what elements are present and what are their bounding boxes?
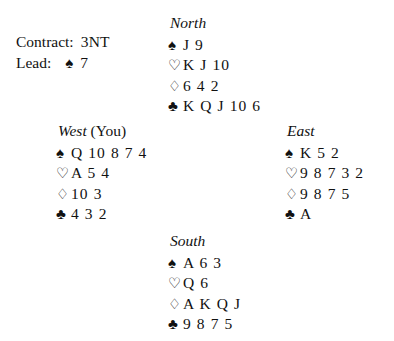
suit-cards-clubs: K Q J 10 6 xyxy=(183,97,261,114)
suit-row-spades: ♠K 5 2 xyxy=(285,143,364,164)
spade-icon: ♠ xyxy=(168,253,183,274)
heart-icon: ♡ xyxy=(56,163,71,184)
suit-row-hearts: ♡K J 10 xyxy=(168,55,261,76)
diamond-icon: ♢ xyxy=(168,76,183,97)
suit-cards-spades: A 6 3 xyxy=(183,254,222,271)
hand-label-east: East xyxy=(285,121,364,142)
contract-label: Contract: xyxy=(16,33,74,50)
suit-row-clubs: ♣A xyxy=(285,204,364,225)
suit-row-diamonds: ♢A K Q J xyxy=(168,294,241,315)
spade-icon: ♠ xyxy=(56,143,71,164)
suit-row-spades: ♠J 9 xyxy=(168,35,261,56)
suit-cards-clubs: 9 8 7 5 xyxy=(183,315,233,332)
club-icon: ♣ xyxy=(168,96,183,117)
hand-label-north: North xyxy=(168,13,261,34)
suit-row-hearts: ♡Q 6 xyxy=(168,273,241,294)
suit-cards-spades: J 9 xyxy=(183,36,204,53)
diamond-icon: ♢ xyxy=(168,294,183,315)
hand-north: North ♠J 9 ♡K J 10 ♢6 4 2 ♣K Q J 10 6 xyxy=(168,13,261,117)
hand-west: West (You) ♠Q 10 8 7 4 ♡A 5 4 ♢10 3 ♣4 3… xyxy=(56,121,147,225)
lead-line: Lead:♠7 xyxy=(16,52,110,74)
suit-cards-diamonds: A K Q J xyxy=(183,295,241,312)
suit-row-hearts: ♡A 5 4 xyxy=(56,163,147,184)
direction-name-north: North xyxy=(170,14,206,31)
club-icon: ♣ xyxy=(56,204,71,225)
diamond-icon: ♢ xyxy=(285,184,300,205)
spade-icon: ♠ xyxy=(65,53,80,74)
suit-row-clubs: ♣K Q J 10 6 xyxy=(168,96,261,117)
lead-label: Lead: xyxy=(16,54,51,71)
heart-icon: ♡ xyxy=(285,163,300,184)
direction-name-east: East xyxy=(287,122,315,139)
hand-south: South ♠A 6 3 ♡Q 6 ♢A K Q J ♣9 8 7 5 xyxy=(168,231,241,335)
you-tag: (You) xyxy=(91,122,126,139)
hand-label-west: West (You) xyxy=(56,121,147,142)
bridge-deal-diagram: Contract:3NT Lead:♠7 North ♠J 9 ♡K J 10 … xyxy=(0,0,394,341)
suit-row-diamonds: ♢10 3 xyxy=(56,184,147,205)
suit-row-diamonds: ♢6 4 2 xyxy=(168,76,261,97)
direction-name-west: West xyxy=(58,122,87,139)
direction-name-south: South xyxy=(170,232,205,249)
suit-row-hearts: ♡9 8 7 3 2 xyxy=(285,163,364,184)
club-icon: ♣ xyxy=(168,314,183,335)
suit-row-spades: ♠A 6 3 xyxy=(168,253,241,274)
suit-cards-spades: K 5 2 xyxy=(300,144,340,161)
suit-cards-spades: Q 10 8 7 4 xyxy=(71,144,147,161)
suit-cards-hearts: 9 8 7 3 2 xyxy=(300,164,364,181)
hand-label-south: South xyxy=(168,231,241,252)
suit-row-diamonds: ♢9 8 7 5 xyxy=(285,184,364,205)
suit-row-spades: ♠Q 10 8 7 4 xyxy=(56,143,147,164)
heart-icon: ♡ xyxy=(168,273,183,294)
suit-row-clubs: ♣9 8 7 5 xyxy=(168,314,241,335)
suit-cards-diamonds: 10 3 xyxy=(71,185,103,202)
contract-block: Contract:3NT Lead:♠7 xyxy=(16,31,110,74)
hand-east: East ♠K 5 2 ♡9 8 7 3 2 ♢9 8 7 5 ♣A xyxy=(285,121,364,225)
suit-cards-diamonds: 6 4 2 xyxy=(183,77,220,94)
diamond-icon: ♢ xyxy=(56,184,71,205)
suit-cards-hearts: K J 10 xyxy=(183,56,230,73)
spade-icon: ♠ xyxy=(285,143,300,164)
contract-value: 3NT xyxy=(81,33,110,50)
suit-row-clubs: ♣4 3 2 xyxy=(56,204,147,225)
suit-cards-clubs: A xyxy=(300,205,312,222)
spade-icon: ♠ xyxy=(168,35,183,56)
suit-cards-hearts: Q 6 xyxy=(183,274,209,291)
heart-icon: ♡ xyxy=(168,55,183,76)
lead-card-value: 7 xyxy=(80,54,88,71)
club-icon: ♣ xyxy=(285,204,300,225)
contract-line: Contract:3NT xyxy=(16,31,110,52)
suit-cards-hearts: A 5 4 xyxy=(71,164,110,181)
suit-cards-diamonds: 9 8 7 5 xyxy=(300,185,350,202)
suit-cards-clubs: 4 3 2 xyxy=(71,205,108,222)
